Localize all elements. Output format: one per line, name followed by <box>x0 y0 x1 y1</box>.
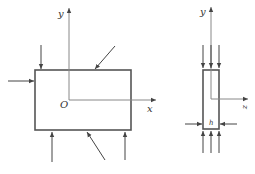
force-arrow-diagonal-top <box>95 46 115 69</box>
diagram-canvas: y x O y z h <box>0 0 255 174</box>
origin-label: O <box>60 99 68 110</box>
right-figure: y z h <box>185 6 250 153</box>
width-label-h: h <box>209 119 214 127</box>
x-axis-label: x <box>147 103 153 114</box>
y-axis-label-right: y <box>199 6 206 17</box>
force-arrow-diagonal-bottom <box>87 132 105 160</box>
z-axis-label: z <box>241 104 250 110</box>
y-axis-label: y <box>57 8 64 19</box>
left-figure: y x O <box>8 8 156 162</box>
